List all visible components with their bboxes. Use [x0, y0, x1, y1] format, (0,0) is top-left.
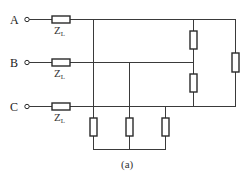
resistor-icon	[52, 16, 70, 23]
zl-c-sub: L	[61, 117, 65, 125]
terminal-c-label: C	[10, 100, 18, 114]
line-impedance-b: ZL	[52, 59, 70, 81]
resistor-icon	[52, 59, 70, 66]
svg-text:ZL: ZL	[54, 24, 65, 38]
svg-text:ZL: ZL	[54, 111, 65, 125]
zl-b-sub: L	[61, 73, 65, 81]
star-resistor-b-icon	[126, 118, 133, 136]
delta-load	[190, 20, 239, 107]
delta-resistor-bc-icon	[190, 74, 197, 92]
circuit-diagram: A B C ZL ZL ZL (a)	[0, 0, 244, 173]
star-resistor-a-icon	[90, 118, 97, 136]
line-impedance-c: ZL	[52, 103, 70, 125]
terminal-a: A	[10, 13, 29, 27]
terminal-b-node-icon	[25, 60, 29, 64]
figure-caption: (a)	[121, 158, 134, 171]
terminal-a-node-icon	[25, 17, 29, 21]
svg-text:ZL: ZL	[54, 67, 65, 81]
terminal-c: C	[10, 100, 29, 114]
zl-a-sub: L	[61, 30, 65, 38]
star-load	[90, 20, 169, 150]
terminal-b-label: B	[10, 56, 18, 70]
terminal-b: B	[10, 56, 29, 70]
delta-resistor-ac-icon	[232, 53, 239, 72]
delta-resistor-ab-icon	[190, 31, 197, 49]
terminal-a-label: A	[10, 13, 19, 27]
star-resistor-c-icon	[162, 118, 169, 136]
terminal-c-node-icon	[25, 104, 29, 108]
resistor-icon	[52, 103, 70, 110]
line-impedance-a: ZL	[52, 16, 70, 38]
